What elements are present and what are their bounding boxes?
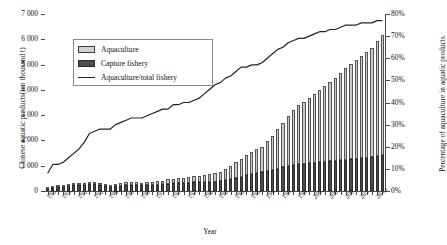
legend-swatch-capture-fishery [78, 60, 95, 67]
y-tick-label-right: 70% [391, 31, 421, 40]
legend-item-capture-fishery: Capture fishery [78, 56, 208, 70]
x-tick [246, 192, 247, 195]
x-tick [184, 192, 185, 195]
legend-label-aquaculture: Aquaculture [101, 45, 139, 54]
y-tick-right [386, 80, 390, 81]
y-tick-right [386, 58, 390, 59]
y-tick-label-right: 0% [391, 186, 421, 195]
y-tick-label-left: 7 000 [2, 9, 38, 18]
y-tick-label-right: 40% [391, 98, 421, 107]
y-tick-label-left: 6 000 [2, 34, 38, 43]
x-tick [293, 192, 294, 195]
y-tick-label-left: 1 000 [2, 161, 38, 170]
y-tick-right [386, 125, 390, 126]
x-tick [231, 192, 232, 195]
x-axis-title: Year [150, 228, 270, 236]
y-tick-label-right: 80% [391, 9, 421, 18]
y-tick-label-right: 10% [391, 164, 421, 173]
legend-label-ratio-line: Aquaculture/total fishery [101, 73, 177, 82]
x-tick [89, 192, 90, 195]
chart-figure: Chinese aquatic products(ten thousand t)… [0, 0, 447, 245]
legend-label-capture-fishery: Capture fishery [101, 59, 148, 68]
legend-swatch-aquaculture [78, 46, 95, 53]
y-tick-label-right: 60% [391, 53, 421, 62]
y-tick-label-right: 30% [391, 120, 421, 129]
y-tick-right [386, 169, 390, 170]
x-tick [199, 192, 200, 195]
chart-legend: Aquaculture Capture fishery Aquaculture/… [73, 39, 213, 86]
y-tick-label-right: 50% [391, 75, 421, 84]
x-tick [137, 192, 138, 195]
y-tick-right [386, 103, 390, 104]
y-tick-label-left: 2 000 [2, 135, 38, 144]
y-tick-right [386, 147, 390, 148]
legend-swatch-ratio-line [78, 77, 95, 78]
y-tick-label-left: 3 000 [2, 110, 38, 119]
y-tick-left [41, 191, 45, 192]
y-tick-label-left: 5 000 [2, 60, 38, 69]
x-tick [341, 192, 342, 195]
y-tick-right [386, 14, 390, 15]
y-tick-label-left: 4 000 [2, 85, 38, 94]
legend-item-aquaculture: Aquaculture [78, 42, 208, 56]
y-tick-label-right: 20% [391, 142, 421, 151]
y-axis-right-title: Percentage of aquaculture in aquatic pro… [439, 4, 447, 204]
y-tick-right [386, 36, 390, 37]
legend-item-ratio-line: Aquaculture/total fishery [78, 70, 208, 84]
y-tick-label-left: 0 [2, 186, 38, 195]
